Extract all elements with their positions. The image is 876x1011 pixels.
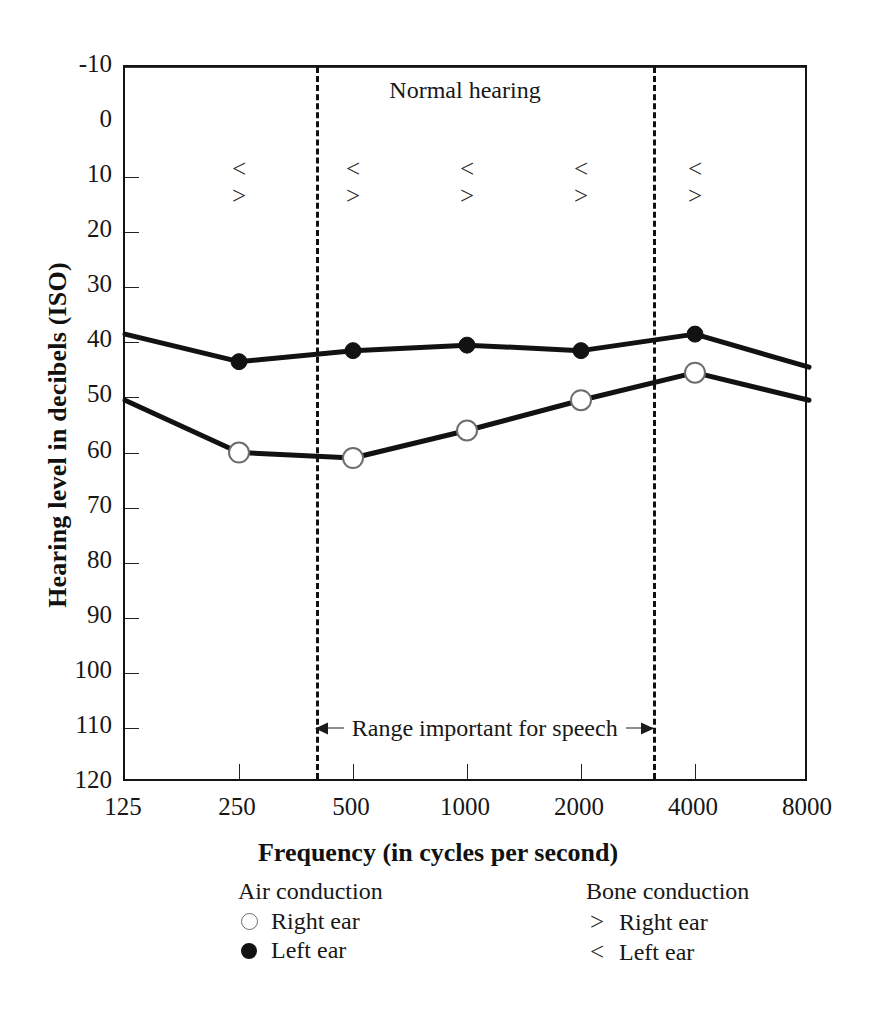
x-axis-tick-label: 4000	[668, 793, 718, 821]
data-point-right-ear	[685, 363, 705, 383]
y-axis-tick-label: 70	[22, 492, 112, 517]
y-axis-tick-label: 40	[22, 326, 112, 351]
y-axis-tick-label: 20	[22, 216, 112, 241]
data-point-left-ear	[231, 354, 247, 370]
x-axis-tick-label: 1000	[440, 793, 490, 821]
y-axis-tick-label: 100	[22, 657, 112, 682]
greater-than-icon: >	[586, 908, 608, 936]
data-point-left-ear	[687, 326, 703, 342]
data-point-left-ear	[573, 343, 589, 359]
legend-item-bone-left-ear: < Left ear	[586, 938, 749, 966]
legend-bone-title: Bone conduction	[586, 878, 749, 905]
audiogram-figure: Hearing level in decibels (ISO) -1001020…	[0, 0, 876, 1011]
data-point-right-ear	[343, 448, 363, 468]
x-axis-title: Frequency (in cycles per second)	[0, 838, 876, 868]
legend-air-left-ear-label: Left ear	[271, 937, 346, 964]
legend-bone-right-ear-label: Right ear	[619, 909, 708, 936]
open-circle-icon	[238, 913, 260, 930]
legend-air-title: Air conduction	[238, 878, 383, 905]
legend-item-air-left-ear: Left ear	[238, 937, 383, 964]
legend-bone-left-ear-label: Left ear	[619, 939, 694, 966]
y-axis-tick-label: 60	[22, 437, 112, 462]
data-point-right-ear	[457, 421, 477, 441]
speech-range-annotation: Range important for speech	[316, 714, 653, 741]
plot-area: Normal hearing <<<<<>>>>> Range importan…	[123, 65, 807, 781]
speech-range-right-arrow	[626, 727, 653, 728]
speech-range-label: Range important for speech	[350, 714, 620, 741]
data-point-left-ear	[459, 337, 475, 353]
data-point-left-ear	[345, 343, 361, 359]
y-axis-tick-label: 110	[22, 712, 112, 737]
legend-air-right-ear-label: Right ear	[271, 908, 360, 935]
y-axis-tick-label: -10	[22, 51, 112, 76]
legend-bone-conduction: Bone conduction > Right ear < Left ear	[586, 878, 749, 966]
x-axis-tick-label: 2000	[554, 793, 604, 821]
x-axis-tick-label: 500	[332, 793, 370, 821]
x-axis-tick-label: 8000	[782, 793, 832, 821]
legend-air-conduction: Air conduction Right ear Left ear	[238, 878, 383, 964]
speech-range-left-arrow	[316, 727, 343, 728]
less-than-icon: <	[586, 938, 608, 966]
legend-item-air-right-ear: Right ear	[238, 908, 383, 935]
y-axis-tick-label: 50	[22, 381, 112, 406]
y-axis-tick-label: 80	[22, 547, 112, 572]
legend-item-bone-right-ear: > Right ear	[586, 908, 749, 936]
y-axis-tick-label: 120	[22, 767, 112, 792]
y-axis-tick-label: 0	[22, 106, 112, 131]
x-axis-tick-label: 250	[218, 793, 256, 821]
filled-circle-icon	[238, 943, 260, 959]
data-point-right-ear	[571, 390, 591, 410]
y-axis-tick-label: 90	[22, 602, 112, 627]
air-conduction-right-ear-line	[125, 373, 809, 458]
y-axis-tick-label: 30	[22, 271, 112, 296]
y-axis-tick-label: 10	[22, 161, 112, 186]
legend: Air conduction Right ear Left ear Bone c…	[0, 878, 876, 998]
air-conduction-curves	[125, 67, 809, 783]
x-axis-tick-label: 125	[104, 793, 142, 821]
data-point-right-ear	[229, 443, 249, 463]
